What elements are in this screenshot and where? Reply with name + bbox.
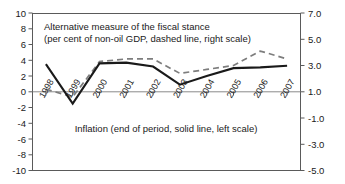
x-axis-label-1999: 1999 [64, 77, 83, 99]
x-axis-label-2001: 2001 [117, 77, 136, 99]
x-axis-label-2006: 2006 [251, 77, 270, 99]
left-axis-label-neg2: -2 [18, 102, 26, 113]
left-axis-label-4: 4 [21, 55, 26, 66]
fiscal-stance-inflation-chart: 10 8 6 4 2 0 -2 -4 -6 -8 -10 7.0 5.0 3.0… [0, 0, 345, 184]
chart-canvas: 10 8 6 4 2 0 -2 -4 -6 -8 -10 7.0 5.0 3.0… [0, 0, 345, 184]
fiscal-stance-annotation-line1: Alternative measure of the fiscal stance [44, 21, 210, 32]
x-axis-label-2002: 2002 [144, 77, 163, 99]
x-axis-year-labels: 1998199920002001200220032004200520062007 [37, 77, 297, 99]
right-axis-label-neg3: -3.0 [308, 139, 324, 150]
right-axis-label-5: 5.0 [308, 34, 321, 45]
left-axis-label-0: 0 [21, 86, 26, 97]
x-axis-label-2005: 2005 [225, 77, 244, 99]
left-axis-label-2: 2 [21, 71, 26, 82]
right-axis-label-neg5: -5.0 [308, 165, 324, 176]
right-axis-label-7: 7.0 [308, 8, 321, 19]
left-axis-label-neg10: -10 [12, 165, 26, 176]
right-axis-ticks: 7.0 5.0 3.0 1.0 -1.0 -3.0 -5.0 [301, 8, 325, 177]
x-axis-label-1998: 1998 [37, 77, 56, 99]
left-axis-ticks: 10 8 6 4 2 0 -2 -4 -6 -8 -10 [12, 8, 32, 177]
right-axis-label-neg1: -1.0 [308, 113, 324, 124]
inflation-solid-line [46, 63, 287, 104]
right-axis-label-3: 3.0 [308, 60, 321, 71]
x-axis-label-2004: 2004 [198, 77, 217, 99]
left-axis-label-neg4: -4 [18, 118, 26, 129]
inflation-annotation: Inflation (end of period, solid line, le… [75, 123, 258, 134]
left-axis-label-8: 8 [21, 23, 26, 34]
x-axis-label-2007: 2007 [278, 77, 297, 99]
left-axis-label-neg8: -8 [18, 149, 26, 160]
left-axis-label-6: 6 [21, 39, 26, 50]
left-axis-label-10: 10 [15, 8, 26, 19]
right-axis-label-1: 1.0 [308, 86, 321, 97]
left-axis-label-neg6: -6 [18, 134, 26, 145]
fiscal-stance-annotation-line2: (per cent of non-oil GDP, dashed line, r… [44, 33, 251, 44]
x-axis-label-2000: 2000 [91, 77, 110, 99]
